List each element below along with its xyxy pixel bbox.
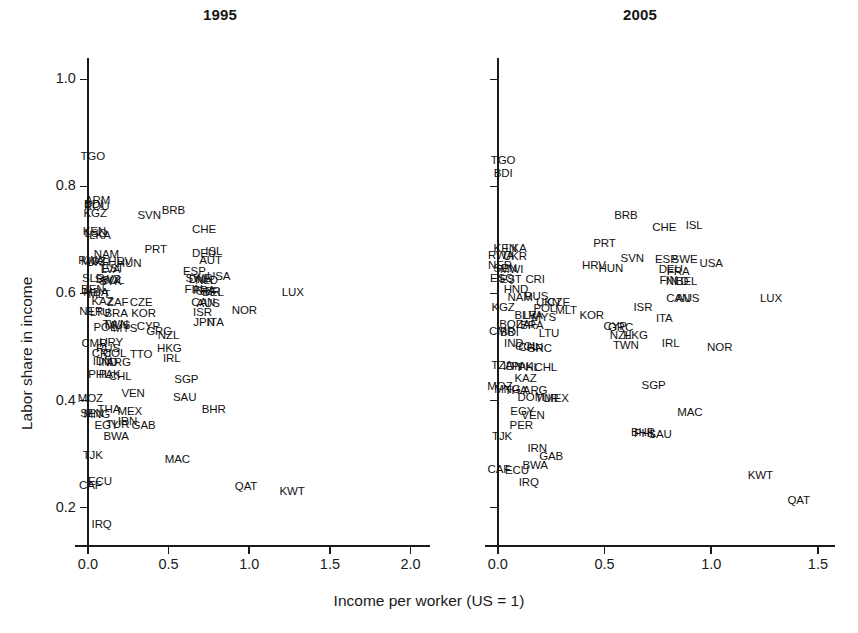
data-point-label: KWT <box>748 471 773 483</box>
data-point-label: TWN <box>613 340 639 352</box>
data-point-label: CHL <box>534 363 557 375</box>
data-point-label: HUN <box>599 263 624 275</box>
y-tick-2005-3 <box>490 186 497 188</box>
y-tick-2005-0 <box>490 507 497 509</box>
data-point-label: BDI <box>494 168 513 180</box>
data-point-label: ISL <box>686 220 703 232</box>
data-point-label: CRI <box>525 274 545 286</box>
x-tick-label-2005-3: 1.5 <box>793 556 843 572</box>
data-point-label: KOR <box>579 311 604 323</box>
data-point-label: PRT <box>593 238 616 250</box>
data-point-label: ITA <box>656 313 673 325</box>
data-point-label: SAU <box>648 429 671 441</box>
data-point-label: TJK <box>492 431 512 443</box>
y-tick-2005-2 <box>490 293 497 295</box>
data-point-label: QAT <box>787 495 810 507</box>
data-point-label: IRL <box>662 338 680 350</box>
data-point-label: AUS <box>676 294 699 306</box>
data-point-label: LUX <box>760 294 782 306</box>
x-tick-label-2005-0: 0.0 <box>473 556 523 572</box>
data-point-label: ECU <box>505 465 529 477</box>
data-point-label: IRQ <box>519 478 539 490</box>
x-tick-2005-0 <box>497 547 499 554</box>
data-point-label: LTU <box>539 328 560 340</box>
x-axis-spine-2005 <box>485 545 835 547</box>
data-point-label: MAC <box>677 408 702 420</box>
y-tick-2005-4 <box>490 79 497 81</box>
plot-area-2005: 0.00.51.01.5TGOBDIBRBCHEISLPRTKENLKARWAU… <box>0 0 858 633</box>
data-point-label: BEL <box>676 276 697 288</box>
data-point-label: BRB <box>614 210 637 222</box>
data-point-label: GRC <box>527 343 552 355</box>
data-point-label: TGO <box>491 155 516 167</box>
scatter-figure-panels: 1995 2005 Labor share in income Income p… <box>0 0 858 633</box>
data-point-label: NOR <box>707 342 732 354</box>
y-tick-2005-1 <box>490 400 497 402</box>
x-tick-2005-2 <box>710 547 712 554</box>
data-point-label: MLT <box>555 305 577 317</box>
data-point-label: ISR <box>633 303 652 315</box>
x-tick-label-2005-2: 1.0 <box>686 556 736 572</box>
data-point-label: SGP <box>642 380 666 392</box>
data-point-label: KGZ <box>491 303 514 315</box>
data-point-label: CHE <box>652 222 676 234</box>
data-point-label: USA <box>700 258 723 270</box>
data-point-label: SVN <box>621 253 644 265</box>
x-tick-label-2005-1: 0.5 <box>580 556 630 572</box>
x-tick-2005-1 <box>604 547 606 554</box>
x-tick-2005-3 <box>817 547 819 554</box>
data-point-label: MEX <box>544 394 569 406</box>
data-point-label: PER <box>510 420 533 432</box>
